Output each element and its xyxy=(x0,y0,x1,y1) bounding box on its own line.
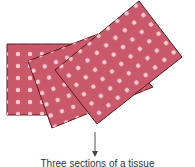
diagram-caption: Three sections of a tissue xyxy=(0,158,195,167)
tissue-sections-diagram xyxy=(0,0,195,167)
down-arrow-icon xyxy=(92,132,98,157)
